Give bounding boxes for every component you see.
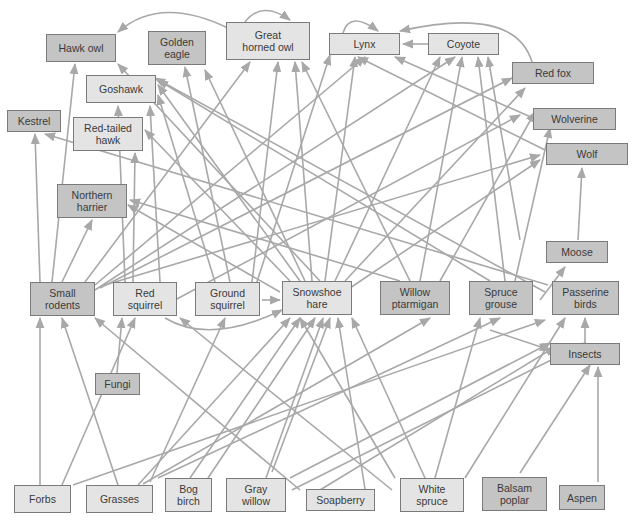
species-label: Golden eagle xyxy=(160,36,194,60)
species-label: Wolf xyxy=(577,148,598,160)
species-node-northern-harrier: Northern harrier xyxy=(57,184,127,218)
species-node-coyote: Coyote xyxy=(428,33,499,55)
species-node-hawk-owl: Hawk owl xyxy=(46,34,116,62)
feeding-arrow xyxy=(435,318,480,478)
species-label: Snowshoe hare xyxy=(292,286,341,310)
species-node-ground-squirrel: Ground squirrel xyxy=(195,282,260,316)
feeding-arrow xyxy=(133,153,135,282)
species-node-balsam-poplar: Balsam poplar xyxy=(482,477,547,511)
curved-feeding-arrow xyxy=(245,10,290,22)
species-label: Moose xyxy=(561,246,593,258)
curved-feeding-arrow xyxy=(343,21,378,33)
species-node-wolverine: Wolverine xyxy=(533,108,616,130)
species-node-red-fox: Red fox xyxy=(512,62,594,84)
feeding-arrow xyxy=(478,57,505,281)
species-label: Northern harrier xyxy=(72,189,113,213)
feeding-arrow xyxy=(52,64,75,282)
feeding-arrow xyxy=(520,365,590,473)
species-label: Insects xyxy=(568,348,601,360)
species-node-snowshoe-hare: Snowshoe hare xyxy=(282,281,352,315)
species-label: Red-tailed hawk xyxy=(84,122,132,146)
feeding-arrow xyxy=(62,220,92,282)
curved-feeding-arrow xyxy=(118,12,228,32)
species-node-grasses: Grasses xyxy=(86,485,153,513)
feeding-arrow xyxy=(145,130,290,281)
feeding-arrow xyxy=(35,134,40,282)
feeding-arrow xyxy=(578,168,582,240)
feeding-arrow xyxy=(272,318,330,472)
species-label: Passerine birds xyxy=(562,286,609,310)
species-node-aspen: Aspen xyxy=(559,485,605,510)
species-node-spruce-grouse: Spruce grouse xyxy=(469,281,533,315)
species-label: Goshawk xyxy=(99,83,143,95)
species-label: Kestrel xyxy=(18,115,51,127)
species-label: Grasses xyxy=(100,493,139,505)
species-label: Small rodents xyxy=(45,287,80,311)
feeding-arrow xyxy=(95,318,300,490)
species-node-gray-willow: Gray willow xyxy=(226,478,286,512)
feeding-arrow xyxy=(190,318,300,478)
species-node-bog-birch: Bog birch xyxy=(165,478,212,512)
feeding-arrow xyxy=(143,318,430,484)
species-node-soapberry: Soapberry xyxy=(306,489,375,511)
species-label: Bog birch xyxy=(177,483,200,507)
species-label: Wolverine xyxy=(551,113,598,125)
species-node-goshawk: Goshawk xyxy=(86,75,156,103)
species-label: Coyote xyxy=(447,38,480,50)
feeding-arrow xyxy=(117,318,122,373)
species-label: Ground squirrel xyxy=(210,287,245,311)
species-label: Great horned owl xyxy=(242,29,293,53)
species-label: White spruce xyxy=(416,483,448,507)
species-label: Lynx xyxy=(354,38,376,50)
species-label: Fungi xyxy=(104,378,130,390)
feeding-arrow xyxy=(73,320,545,485)
species-label: Balsam poplar xyxy=(497,482,532,506)
species-label: Hawk owl xyxy=(59,42,104,54)
species-node-small-rodents: Small rodents xyxy=(30,282,95,316)
species-node-insects: Insects xyxy=(550,343,620,365)
species-node-red-tailed-hawk: Red-tailed hawk xyxy=(73,117,143,151)
species-node-passerine-birds: Passerine birds xyxy=(552,281,619,315)
feeding-arrow xyxy=(208,318,315,478)
feeding-arrow xyxy=(515,128,550,281)
feeding-arrow xyxy=(62,318,118,485)
species-node-wolf: Wolf xyxy=(546,143,628,165)
feeding-arrow xyxy=(490,330,550,350)
species-label: Spruce grouse xyxy=(484,286,517,310)
species-node-fungi: Fungi xyxy=(95,373,140,395)
species-node-white-spruce: White spruce xyxy=(400,478,464,512)
feeding-arrow xyxy=(252,62,278,282)
species-label: Forbs xyxy=(29,493,56,505)
species-label: Willow ptarmigan xyxy=(392,286,439,310)
species-node-great-horned-owl: Great horned owl xyxy=(226,22,310,60)
species-node-willow-ptarmigan: Willow ptarmigan xyxy=(380,281,450,315)
species-node-kestrel: Kestrel xyxy=(7,110,61,132)
species-label: Red squirrel xyxy=(128,287,162,311)
species-node-golden-eagle: Golden eagle xyxy=(148,31,206,65)
species-node-lynx: Lynx xyxy=(329,33,400,55)
species-label: Soapberry xyxy=(316,494,364,506)
feeding-arrow xyxy=(302,62,410,281)
species-label: Aspen xyxy=(567,492,597,504)
species-node-moose: Moose xyxy=(546,241,608,263)
species-label: Gray willow xyxy=(242,483,270,507)
species-node-forbs: Forbs xyxy=(14,485,71,513)
feeding-arrow xyxy=(128,205,280,292)
feeding-arrow xyxy=(350,160,540,288)
species-node-red-squirrel: Red squirrel xyxy=(113,282,177,316)
species-label: Red fox xyxy=(535,67,571,79)
